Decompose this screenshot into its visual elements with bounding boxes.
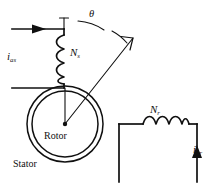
- rotor-current-label: ibr: [193, 144, 202, 155]
- stator-label: Stator: [13, 159, 37, 169]
- rotor-coil: [143, 117, 189, 125]
- theta-angle-label: θ: [89, 9, 94, 20]
- stator-current-arrowhead: [32, 25, 46, 34]
- rotor-turns-label: Nr: [150, 104, 160, 115]
- stator-turns-label: Ns: [70, 47, 80, 58]
- stator-current-label: ias: [7, 51, 16, 62]
- theta-arc-left: [78, 21, 104, 30]
- rotor-label: Rotor: [44, 131, 67, 141]
- stator-coil: [57, 35, 65, 84]
- machine-diagram: ias Ns θ Rotor Stator Nr ibr: [0, 0, 215, 187]
